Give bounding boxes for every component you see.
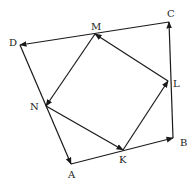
point-label-m: M bbox=[91, 21, 101, 32]
point-label-n: N bbox=[30, 101, 39, 112]
point-label-a: A bbox=[67, 169, 76, 180]
point-label-d: D bbox=[9, 37, 17, 48]
vector-da bbox=[20, 45, 71, 164]
point-label-b: B bbox=[180, 137, 187, 148]
vector-lm bbox=[95, 34, 168, 81]
vector-segments bbox=[20, 22, 173, 164]
vector-nk bbox=[46, 106, 123, 150]
vector-diagram: ABCDKLMN bbox=[0, 0, 195, 182]
point-label-c: C bbox=[167, 8, 175, 19]
vector-kl bbox=[123, 81, 168, 150]
point-label-k: K bbox=[119, 154, 127, 165]
vector-mn bbox=[46, 34, 95, 106]
point-label-l: L bbox=[173, 78, 180, 89]
point-labels: ABCDKLMN bbox=[9, 8, 187, 180]
